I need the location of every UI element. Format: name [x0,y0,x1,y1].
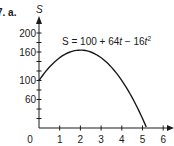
y-axis-label: S [36,4,43,15]
x-tick-label: 6 [160,134,166,145]
axes [36,16,174,131]
chart: 123456060100160200 7. a. S S = 100 + 64t… [0,0,174,146]
x-tick-label: 1 [57,134,63,145]
x-tick-label: 3 [98,134,104,145]
problem-label: 7. a. [0,7,17,18]
x-axis-arrow-icon [167,125,174,131]
x-tick-label: 4 [119,134,125,145]
origin-label: 0 [27,134,33,145]
equation-label: S = 100 + 64t − 16t2 [62,35,151,47]
x-tick-label: 5 [140,134,146,145]
y-tick-label: 160 [19,47,36,58]
ticks [37,33,164,131]
y-tick-label: 200 [19,28,36,39]
x-tick-label: 2 [78,134,84,145]
y-tick-label: 60 [25,94,37,105]
data-curve [39,50,146,127]
y-axis-arrow-icon [36,16,42,24]
y-tick-label: 100 [19,75,36,86]
